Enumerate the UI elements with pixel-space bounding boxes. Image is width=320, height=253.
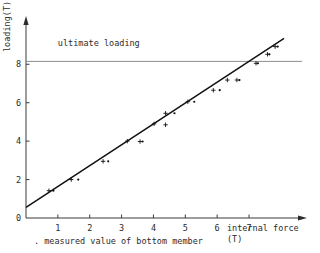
y-axis-title: loading(T) (2, 1, 12, 52)
data-point-plus (163, 123, 167, 127)
ultimate-loading-label: ultimate loading (58, 38, 140, 48)
x-axis-title-line2: (T) (227, 234, 242, 244)
y-tick-label: 6 (16, 98, 21, 108)
x-axis-arrowhead (298, 215, 307, 220)
data-point-plus (101, 159, 105, 163)
y-tick-label: 2 (16, 175, 21, 185)
data-point-dot (193, 101, 195, 103)
y-axis-arrowhead (23, 16, 28, 25)
data-point-dot (52, 190, 54, 192)
scatter-chart: 123456702468ultimate loadingloading(T)in… (0, 0, 320, 253)
plot-area: 123456702468ultimate loadingloading(T)in… (2, 1, 307, 246)
x-tick-label: 6 (215, 223, 220, 233)
x-tick-label: 5 (183, 223, 188, 233)
x-tick-label: 3 (119, 223, 124, 233)
x-axis-title-line1: internal force (227, 223, 299, 233)
data-point-dot (107, 160, 109, 162)
data-point-plus (225, 78, 229, 82)
y-tick-label: 0 (16, 213, 21, 223)
trend-line (26, 38, 284, 207)
data-point-dot (257, 62, 259, 64)
data-point-dot (219, 89, 221, 91)
y-tick-label: 8 (16, 59, 21, 69)
chart-caption: . measured value of bottom member (34, 236, 203, 246)
x-tick-label: 2 (87, 223, 92, 233)
data-point-dot (142, 140, 144, 142)
data-point-dot (238, 79, 240, 81)
data-point-dot (77, 178, 79, 180)
x-tick-label: 1 (55, 223, 60, 233)
data-point-dot (277, 45, 279, 47)
data-point-dot (268, 53, 270, 55)
data-point-plus (211, 88, 215, 92)
x-tick-label: 4 (151, 223, 156, 233)
data-point-dot (173, 112, 175, 114)
y-tick-label: 4 (16, 136, 21, 146)
